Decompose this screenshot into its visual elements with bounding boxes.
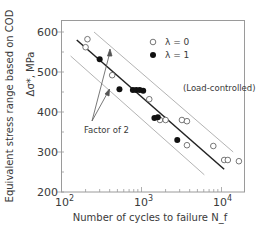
filled-point-lambda-1 [97, 56, 103, 62]
y-axis-ticks [57, 32, 64, 192]
y-tick-label-300: 300 [37, 146, 58, 159]
open-point-lambda-0 [163, 117, 169, 123]
legend-filled-circle-icon [150, 52, 156, 58]
filled-point-lambda-1 [155, 114, 161, 120]
legend-label-lambda-1: λ = 1 [165, 50, 189, 60]
x-tick-labels: 102 103 104 [55, 194, 232, 209]
x-axis-title: Number of cycles to failure N_f [73, 212, 228, 224]
open-point-lambda-0 [225, 157, 231, 163]
open-point-lambda-0 [184, 118, 190, 124]
x-tick-label-10000: 104 [213, 194, 232, 209]
y-tick-label-600: 600 [37, 26, 58, 39]
y-axis-title-line1: Equivalent stress range based on COD [4, 9, 15, 202]
sn-chart: 102 103 104 600 500 400 300 200 Number o… [0, 0, 258, 230]
filled-point-lambda-1 [140, 88, 146, 94]
y-axis-title-line2: Δσ*, MPa [25, 52, 36, 97]
lower-factor-of-2-line [71, 56, 205, 175]
legend-label-lambda-0: λ = 0 [165, 37, 190, 47]
filled-point-lambda-1 [174, 137, 180, 143]
y-tick-label-200: 200 [37, 186, 58, 199]
open-point-lambda-0 [211, 143, 217, 149]
y-tick-label-500: 500 [37, 66, 58, 79]
open-point-lambda-0 [109, 72, 115, 78]
factor-of-2-label: Factor of 2 [84, 125, 129, 135]
data-points [83, 36, 242, 164]
open-point-lambda-0 [236, 158, 242, 164]
filled-point-lambda-1 [116, 86, 122, 92]
open-point-lambda-0 [83, 44, 89, 50]
open-point-lambda-0 [85, 36, 91, 42]
x-axis-ticks [62, 187, 222, 192]
open-point-lambda-0 [184, 142, 190, 148]
x-tick-label-1000: 103 [134, 194, 153, 209]
legend: λ = 0 λ = 1 [150, 37, 190, 60]
legend-open-circle-icon [150, 39, 156, 45]
y-tick-label-400: 400 [37, 106, 58, 119]
y-tick-labels: 600 500 400 300 200 [37, 26, 58, 199]
open-point-lambda-0 [146, 96, 152, 102]
load-controlled-label: (Load-controlled) [183, 83, 256, 93]
